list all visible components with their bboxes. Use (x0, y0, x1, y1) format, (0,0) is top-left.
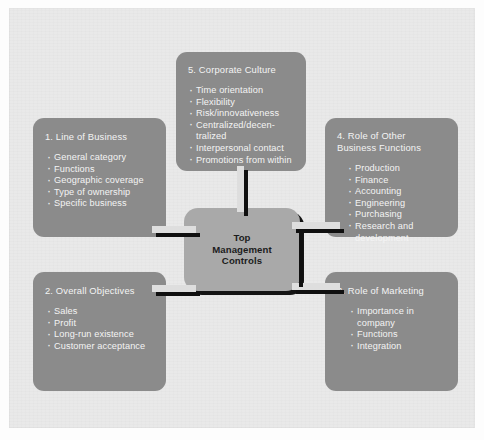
list-item: Engineering (347, 198, 458, 210)
connector-corporate-culture-to-center (237, 166, 244, 212)
node-title: 3. Role of Marketing (337, 285, 458, 297)
diagram-canvas: Top Management Controls 1. Line of Busin… (0, 0, 484, 440)
connector-center-to-other-business-functions (292, 222, 340, 229)
list-item: Promotions from within (188, 155, 306, 167)
node-title: 1. Line of Business (45, 131, 166, 143)
list-item: Long-run existence (46, 329, 166, 341)
list-item: Functions (46, 164, 166, 176)
connector-shadow (156, 233, 200, 237)
node-title: 5. Corporate Culture (188, 64, 306, 76)
list-item: Accounting (347, 186, 458, 198)
list-item: Finance (347, 175, 458, 187)
node-title: 4. Role of Other Business Functions (337, 130, 458, 154)
node-line-of-business[interactable]: 1. Line of Business General category Fun… (33, 118, 166, 237)
node-title: 2. Overall Objectives (45, 285, 166, 297)
list-item: General category (46, 152, 166, 164)
node-role-of-marketing[interactable]: 3. Role of Marketing Importance in compa… (325, 272, 458, 391)
connector-overall-objectives-to-center (152, 285, 196, 292)
node-overall-objectives[interactable]: 2. Overall Objectives Sales Profit Long-… (33, 272, 166, 391)
node-item-list: Importance in company Functions Integrat… (349, 306, 458, 352)
center-node-top-management-controls[interactable]: Top Management Controls (184, 208, 300, 291)
list-item: Functions (349, 329, 458, 341)
list-item: Importance in company (349, 306, 458, 329)
list-item: Geographic coverage (46, 175, 166, 187)
list-item: Research and development (347, 221, 458, 244)
node-item-list: General category Functions Geographic co… (46, 152, 166, 210)
connector-shadow (244, 170, 248, 216)
list-item: Sales (46, 306, 166, 318)
connector-shadow (296, 229, 344, 233)
list-item: Risk/innovativeness (188, 108, 306, 120)
connector-line-of-business-to-center (152, 226, 196, 233)
list-item: Type of ownership (46, 187, 166, 199)
list-item: Specific business (46, 198, 166, 210)
node-corporate-culture[interactable]: 5. Corporate Culture Time orientation Fl… (176, 52, 306, 171)
list-item: Time orientation (188, 85, 306, 97)
list-item: Profit (46, 318, 166, 330)
list-item: Interpersonal contact (188, 143, 306, 155)
connector-shadow (156, 292, 200, 296)
list-item: Customer acceptance (46, 341, 166, 353)
list-item: Production (347, 163, 458, 175)
list-item: Flexibility (188, 97, 306, 109)
center-node-label: Top Management Controls (212, 232, 272, 266)
list-item: Centralized/decen- tralized (188, 120, 306, 143)
connector-shadow (296, 290, 344, 294)
list-item: Integration (349, 341, 458, 353)
node-item-list: Time orientation Flexibility Risk/innova… (188, 85, 306, 166)
node-role-of-other-business-functions[interactable]: 4. Role of Other Business Functions Prod… (325, 118, 458, 237)
node-item-list: Production Finance Accounting Engineerin… (347, 163, 458, 244)
node-item-list: Sales Profit Long-run existence Customer… (46, 306, 166, 352)
connector-right-spine (299, 229, 303, 287)
list-item: Purchasing (347, 209, 458, 221)
